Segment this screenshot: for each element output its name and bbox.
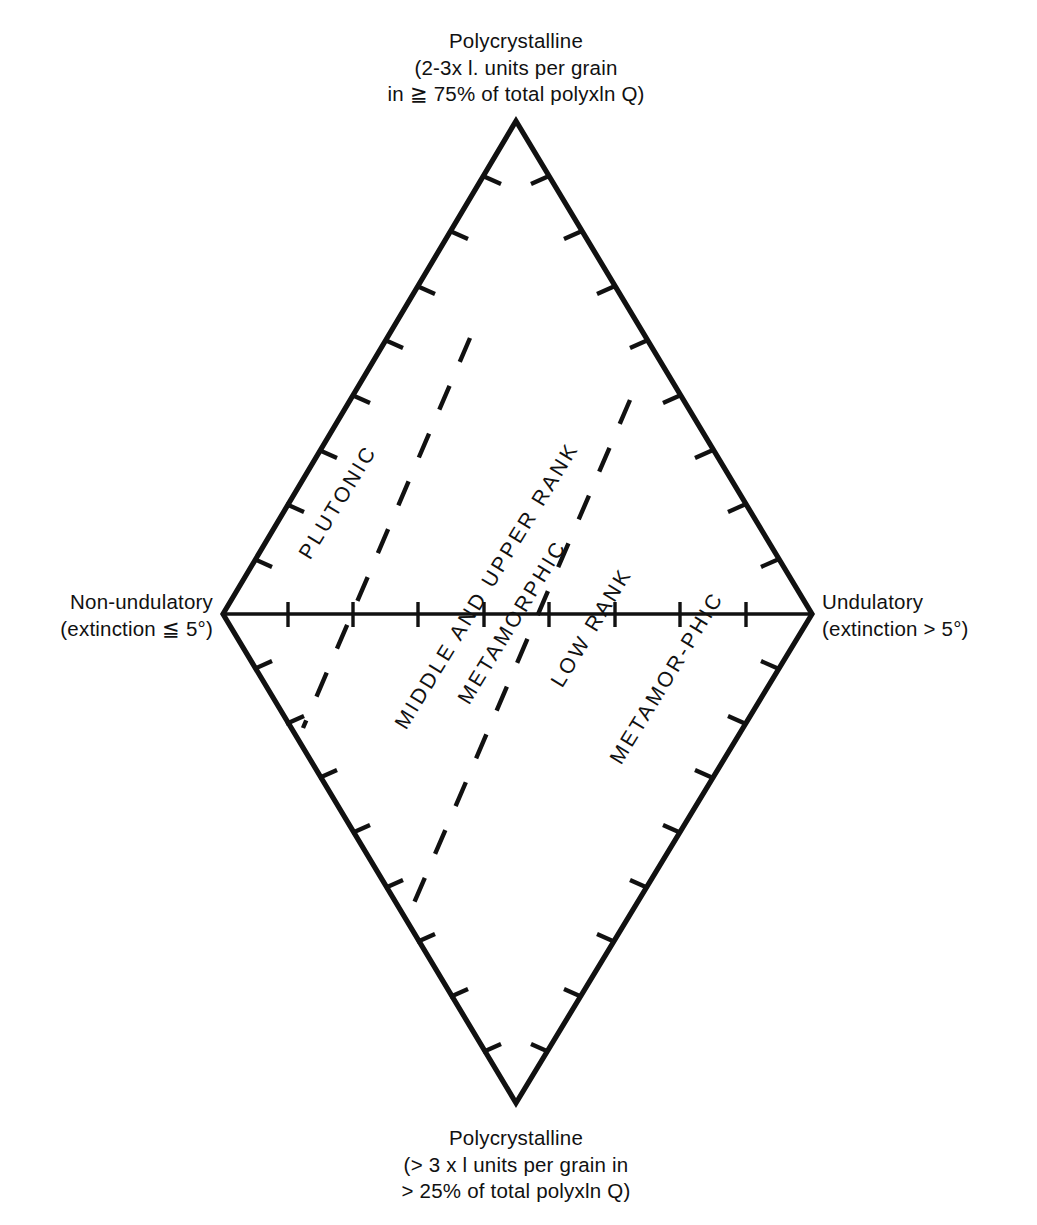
right-label-line-2: (extinction > 5°) <box>822 616 969 643</box>
edge-tick <box>319 450 337 458</box>
right-vertex-label: Undulatory (extinction > 5°) <box>822 589 969 642</box>
edge-tick <box>597 934 615 942</box>
edge-tick <box>630 880 648 888</box>
edge-ticks-upper-left <box>254 176 501 567</box>
edge-ticks-upper-right <box>531 176 779 567</box>
edge-tick <box>352 395 370 403</box>
top-label-line-3: in ≧ 75% of total polyxln Q) <box>387 81 644 108</box>
top-label-line-2: (2-3x l. units per grain <box>387 55 644 82</box>
top-label-line-1: Polycrystalline <box>387 28 644 55</box>
edge-tick <box>761 661 779 669</box>
edge-tick <box>254 661 272 669</box>
left-label-line-2: (extinction ≦ 5°) <box>60 616 213 643</box>
left-vertex-label: Non-undulatory (extinction ≦ 5°) <box>60 589 213 642</box>
left-label-line-1: Non-undulatory <box>60 589 213 616</box>
right-label-line-1: Undulatory <box>822 589 969 616</box>
edge-tick <box>695 770 713 778</box>
edge-tick <box>597 286 615 294</box>
edge-tick <box>630 340 648 348</box>
edge-tick <box>564 989 582 997</box>
edge-tick <box>695 450 713 458</box>
edge-ticks-lower-left <box>254 661 501 1052</box>
edge-tick <box>450 231 468 239</box>
edge-tick <box>254 559 272 567</box>
edge-tick <box>385 340 403 348</box>
edge-tick <box>663 825 681 833</box>
top-vertex-label: Polycrystalline (2-3x l. units per grain… <box>387 28 644 108</box>
bottom-label-line-1: Polycrystalline <box>402 1125 631 1152</box>
edge-tick <box>728 716 746 724</box>
edge-tick <box>564 231 582 239</box>
edge-tick <box>531 176 549 184</box>
edge-tick <box>483 176 501 184</box>
edge-tick <box>728 504 746 512</box>
edge-tick <box>663 395 681 403</box>
bottom-label-line-3: > 25% of total polyxln Q) <box>402 1178 631 1205</box>
bottom-label-line-2: (> 3 x l units per grain in <box>402 1152 631 1179</box>
bottom-vertex-label: Polycrystalline (> 3 x l units per grain… <box>402 1125 631 1205</box>
edge-tick <box>761 559 779 567</box>
edge-tick <box>417 286 435 294</box>
